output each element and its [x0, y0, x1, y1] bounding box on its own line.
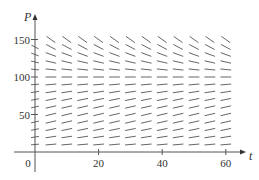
- slope-segment: [126, 53, 135, 56]
- slope-segment: [157, 121, 167, 123]
- y-minor-tick: [31, 91, 39, 92]
- slope-segment: [221, 61, 231, 63]
- slope-segment: [173, 113, 183, 115]
- slope-segment: [110, 144, 120, 145]
- slope-segment: [62, 61, 72, 63]
- slope-segment: [46, 129, 56, 131]
- slope-segment: [221, 106, 231, 108]
- slope-segment: [46, 61, 56, 63]
- slope-segment: [221, 84, 231, 85]
- y-minor-tick: [31, 144, 39, 145]
- slope-segment: [125, 144, 135, 145]
- x-axis-arrowhead-icon: [240, 150, 246, 155]
- slope-segment: [205, 84, 215, 85]
- slope-segment: [190, 45, 199, 50]
- slope-segment: [110, 61, 120, 63]
- slope-segment: [78, 61, 88, 63]
- slope-segment: [141, 113, 151, 115]
- slope-segment: [141, 99, 151, 101]
- slope-segment: [157, 113, 167, 115]
- slope-segment: [78, 106, 88, 108]
- slope-segment: [173, 136, 183, 137]
- slope-segment: [173, 106, 183, 108]
- slope-segment: [94, 136, 104, 137]
- slope-segment: [205, 53, 214, 56]
- slope-segment: [189, 144, 199, 145]
- slope-segment: [110, 121, 120, 123]
- slope-segment: [221, 121, 231, 123]
- slope-segment: [62, 84, 72, 85]
- slope-segment: [142, 37, 150, 43]
- direction-field-chart: 020406050100150 t P: [0, 0, 259, 180]
- y-tick-label: 150: [14, 34, 31, 46]
- slope-segment: [157, 69, 167, 70]
- slope-segment: [189, 61, 199, 63]
- slope-segment: [125, 69, 135, 70]
- slope-segment: [94, 53, 103, 56]
- slope-segment: [62, 121, 72, 123]
- slope-segment: [94, 61, 104, 63]
- slope-segment: [141, 136, 151, 137]
- slope-segment: [95, 37, 103, 43]
- slope-segment: [94, 113, 104, 115]
- slope-segment: [157, 61, 167, 63]
- y-minor-tick: [31, 69, 39, 70]
- slope-segment: [141, 91, 151, 92]
- y-tick-label: 100: [14, 71, 31, 83]
- slope-segment: [205, 61, 215, 63]
- slope-segment: [125, 99, 135, 101]
- slope-segment: [110, 91, 120, 92]
- slope-segment: [62, 144, 72, 145]
- slope-segment: [205, 99, 215, 101]
- slope-segment: [205, 136, 215, 137]
- slope-segment: [46, 106, 56, 108]
- slope-segment: [205, 113, 215, 115]
- slope-segment: [46, 113, 56, 115]
- slope-segment: [173, 129, 183, 131]
- slope-segment: [173, 121, 183, 123]
- slope-segment: [173, 91, 183, 92]
- slope-segment: [174, 45, 183, 50]
- slope-segment: [221, 99, 231, 101]
- slope-segment: [110, 69, 120, 70]
- slope-segment: [125, 91, 135, 92]
- slope-segment: [221, 113, 231, 115]
- slope-segment: [78, 144, 88, 145]
- slope-segment: [110, 136, 120, 137]
- slope-segment: [62, 99, 72, 101]
- slope-segment: [189, 84, 199, 85]
- slope-segment: [157, 129, 167, 131]
- slope-segment: [126, 45, 135, 50]
- slope-segment: [189, 113, 199, 115]
- slope-segment: [94, 69, 104, 70]
- y-minor-tick: [31, 136, 39, 137]
- slope-segment: [110, 113, 120, 115]
- slope-segment: [126, 113, 136, 115]
- slope-segment: [78, 136, 88, 137]
- slope-segment: [94, 84, 104, 85]
- slope-segment: [190, 37, 198, 43]
- slope-segment: [46, 144, 56, 145]
- slope-segment: [221, 69, 231, 70]
- x-tick-label: 0: [25, 157, 31, 169]
- slope-segment: [141, 129, 151, 131]
- slope-segment: [63, 37, 71, 43]
- slope-segment: [94, 129, 104, 131]
- x-tick-label: 40: [157, 157, 169, 169]
- slope-segment: [157, 84, 167, 85]
- slope-segment: [110, 106, 120, 108]
- slope-segment: [46, 45, 55, 50]
- slope-segment: [94, 99, 104, 101]
- slope-segment: [221, 45, 230, 50]
- slope-segment: [62, 45, 71, 50]
- slope-segment: [174, 37, 182, 43]
- slope-segment: [157, 144, 167, 145]
- slope-segment: [94, 144, 104, 145]
- slope-segment: [78, 45, 87, 50]
- slope-segment: [46, 136, 56, 137]
- slope-segment: [189, 91, 199, 92]
- slope-segment: [158, 45, 167, 50]
- slope-segment: [47, 37, 55, 43]
- slope-segment: [173, 61, 183, 63]
- slope-segment: [78, 84, 88, 85]
